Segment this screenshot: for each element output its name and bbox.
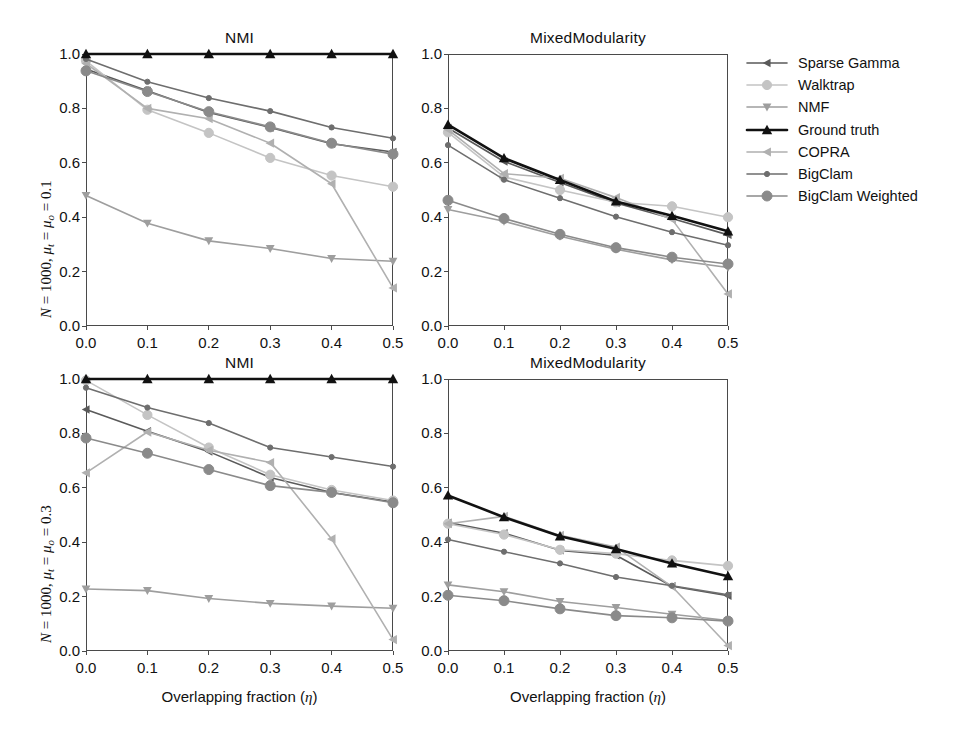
data-marker [499, 596, 509, 606]
data-marker [725, 592, 730, 597]
data-marker [443, 490, 453, 499]
data-marker [723, 561, 732, 570]
figure-root: N = 1000, μt = μo = 0.1 N = 1000, μt = μ… [0, 0, 959, 734]
data-marker [723, 616, 733, 626]
data-marker [613, 574, 618, 579]
data-marker [667, 613, 677, 623]
series-line [448, 523, 728, 596]
data-marker [555, 545, 564, 554]
data-marker [445, 537, 450, 542]
data-marker [499, 530, 508, 539]
series-line [448, 516, 728, 645]
series-line [448, 595, 728, 621]
data-marker [501, 549, 506, 554]
data-marker [669, 583, 674, 588]
data-marker [443, 590, 453, 600]
series-line [448, 495, 728, 576]
data-marker [611, 611, 621, 621]
data-marker [555, 604, 565, 614]
series-layer [0, 0, 959, 734]
series-line [448, 585, 728, 621]
data-marker [557, 561, 562, 566]
